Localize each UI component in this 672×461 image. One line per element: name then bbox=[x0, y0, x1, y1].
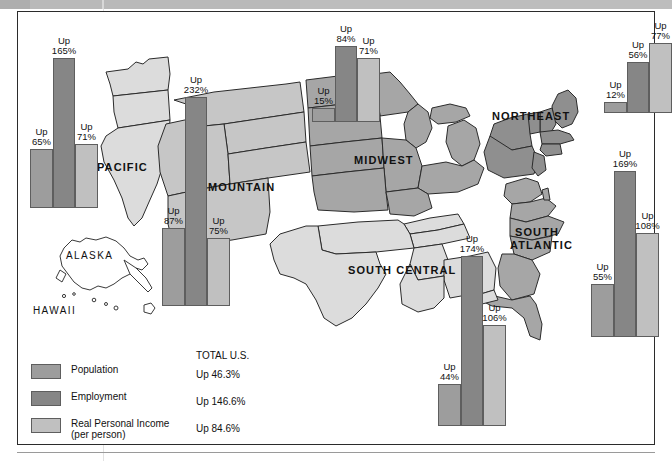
legend-label-population: Population bbox=[71, 364, 118, 375]
region-label-midwest: MIDWEST bbox=[354, 154, 414, 166]
bar-northeast-income: Up 77% bbox=[649, 43, 672, 113]
scan-artifact-bottom-line bbox=[17, 452, 655, 453]
bar-midwest-population: Up 15% bbox=[312, 108, 335, 122]
legend-label-income-line1: Real Personal Income bbox=[71, 418, 169, 429]
bar-northeast-population: Up 12% bbox=[604, 102, 627, 113]
legend: Population Employment Real Personal Inco… bbox=[31, 364, 211, 434]
scan-artifact-top-band bbox=[0, 0, 672, 9]
bar-mountain-population-value: 87% bbox=[164, 216, 183, 226]
region-label-hawaii: HAWAII bbox=[33, 305, 76, 316]
legend-swatch-income bbox=[31, 418, 61, 433]
legend-item-population: Population bbox=[31, 364, 118, 379]
legend-item-income: Real Personal Income (per person) bbox=[31, 418, 169, 440]
bar-mountain-population: Up 87% bbox=[162, 228, 185, 306]
region-hawaii-shape bbox=[62, 293, 155, 314]
region-label-alaska: ALASKA bbox=[66, 250, 113, 261]
bar-pacific-population-value: 65% bbox=[32, 137, 51, 147]
bargroup-pacific: Up 65% Up 165% Up 71% bbox=[30, 32, 98, 208]
region-label-south-atlantic-line2: ATLANTIC bbox=[510, 239, 573, 251]
bar-midwest-employment: Up 84% bbox=[335, 46, 357, 122]
legend-label-employment: Employment bbox=[71, 391, 127, 402]
bar-northeast-population-value: 12% bbox=[606, 90, 625, 100]
bar-south-central-income: Up 106% bbox=[483, 325, 506, 426]
bar-south-atlantic-population: Up 55% bbox=[591, 284, 614, 337]
map-panel: PACIFIC MOUNTAIN MIDWEST NORTHEAST SOUTH… bbox=[17, 11, 655, 445]
bar-south-atlantic-employment-value: 169% bbox=[613, 159, 637, 169]
bar-northeast-employment: Up 56% bbox=[627, 62, 649, 113]
bar-mountain-employment: Up 232% bbox=[185, 97, 207, 306]
bar-mountain-income: Up 75% bbox=[207, 238, 230, 306]
bar-pacific-employment: Up 165% bbox=[53, 58, 75, 208]
bargroup-midwest: Up 15% Up 84% Up 71% bbox=[312, 46, 380, 122]
legend-label-income: Real Personal Income (per person) bbox=[71, 418, 169, 440]
bar-pacific-population: Up 65% bbox=[30, 149, 53, 208]
total-us-population: Up 46.3% bbox=[196, 369, 240, 380]
total-us-heading: TOTAL U.S. bbox=[196, 350, 249, 361]
bar-northeast-income-value: 77% bbox=[651, 31, 670, 41]
bar-midwest-employment-value: 84% bbox=[336, 34, 355, 44]
bar-midwest-income-value: 71% bbox=[359, 46, 378, 56]
bar-south-central-income-value: 106% bbox=[482, 313, 506, 323]
region-alaska-shape bbox=[56, 237, 152, 292]
bar-midwest-population-value: 15% bbox=[314, 96, 333, 106]
bar-south-atlantic-income: Up 108% bbox=[636, 233, 659, 337]
bargroup-south-atlantic: Up 55% Up 169% Up 108% bbox=[591, 170, 659, 337]
bar-south-atlantic-income-value: 108% bbox=[635, 221, 659, 231]
legend-item-employment: Employment bbox=[31, 391, 127, 406]
bar-south-central-employment: Up 174% bbox=[461, 256, 483, 426]
bar-pacific-income-value: 71% bbox=[77, 132, 96, 142]
legend-label-income-line2: (per person) bbox=[71, 429, 125, 440]
region-northeast-shape bbox=[484, 90, 578, 178]
bar-south-atlantic-population-value: 55% bbox=[593, 272, 612, 282]
bar-south-atlantic-employment: Up 169% bbox=[614, 171, 636, 337]
legend-swatch-population bbox=[31, 364, 61, 379]
bargroup-northeast: Up 12% Up 56% Up 77% bbox=[604, 43, 672, 113]
bar-south-central-population-value: 44% bbox=[440, 372, 459, 382]
bar-northeast-employment-value: 56% bbox=[628, 50, 647, 60]
region-label-pacific: PACIFIC bbox=[97, 161, 148, 173]
legend-swatch-employment bbox=[31, 391, 61, 406]
bar-pacific-employment-value: 165% bbox=[52, 46, 76, 56]
total-us-employment: Up 146.6% bbox=[196, 396, 245, 407]
bargroup-mountain: Up 87% Up 232% Up 75% bbox=[162, 96, 230, 306]
region-label-south-atlantic-line1: SOUTH bbox=[515, 226, 559, 238]
bargroup-south-central: Up 44% Up 174% Up 106% bbox=[438, 254, 506, 426]
bar-mountain-income-value: 75% bbox=[209, 226, 228, 236]
bar-pacific-income: Up 71% bbox=[75, 144, 98, 208]
bar-midwest-income: Up 71% bbox=[357, 58, 380, 122]
bar-south-central-employment-value: 174% bbox=[460, 244, 484, 254]
bar-south-central-population: Up 44% bbox=[438, 384, 461, 426]
region-label-northeast: NORTHEAST bbox=[492, 110, 570, 122]
total-us-income: Up 84.6% bbox=[196, 423, 240, 434]
bar-mountain-employment-value: 232% bbox=[184, 85, 208, 95]
